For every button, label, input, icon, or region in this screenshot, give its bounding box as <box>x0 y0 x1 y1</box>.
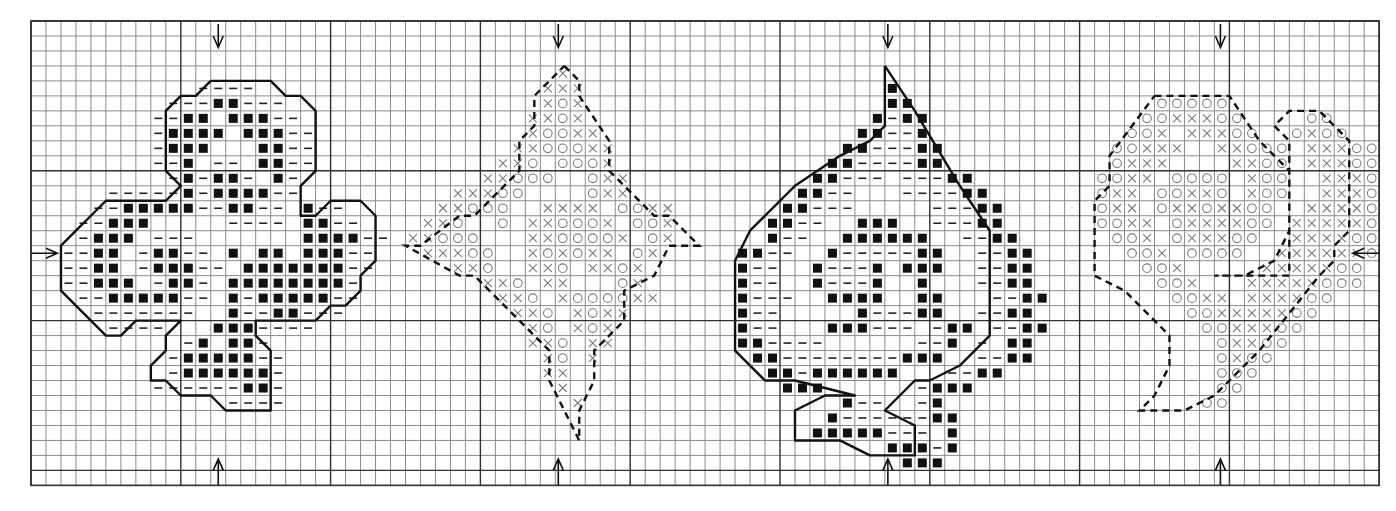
filled-square-stitch-icon <box>978 369 987 378</box>
filled-square-stitch-icon <box>184 264 193 273</box>
circle-stitch-icon <box>1293 309 1302 318</box>
cross-stitch-icon <box>1293 279 1301 287</box>
cross-stitch-icon <box>484 174 492 182</box>
filled-square-stitch-icon <box>1008 279 1017 288</box>
filled-square-stitch-icon <box>169 294 178 303</box>
cross-stitch-icon <box>574 114 582 122</box>
circle-stitch-icon <box>484 264 493 273</box>
filled-square-stitch-icon <box>334 249 343 258</box>
filled-square-stitch-icon <box>843 428 852 437</box>
cross-stitch-icon <box>1323 159 1331 167</box>
filled-square-stitch-icon <box>154 294 163 303</box>
cross-stitch-icon <box>1248 294 1256 302</box>
filled-square-stitch-icon <box>888 234 897 243</box>
cross-stitch-icon <box>1128 159 1136 167</box>
filled-square-stitch-icon <box>918 234 927 243</box>
filled-square-stitch-icon <box>259 249 268 258</box>
filled-square-stitch-icon <box>993 369 1002 378</box>
circle-stitch-icon <box>1173 234 1182 243</box>
cross-stitch-icon <box>514 144 522 152</box>
circle-stitch-icon <box>1173 219 1182 228</box>
filled-square-stitch-icon <box>828 324 837 333</box>
circle-stitch-icon <box>1143 264 1152 273</box>
filled-square-stitch-icon <box>798 204 807 213</box>
filled-square-stitch-icon <box>948 324 957 333</box>
circle-stitch-icon <box>1218 399 1227 408</box>
cross-stitch-icon <box>559 279 567 287</box>
filled-square-stitch-icon <box>753 339 762 348</box>
filled-square-stitch-icon <box>109 264 118 273</box>
filled-square-stitch-icon <box>918 264 927 273</box>
filled-square-stitch-icon <box>873 279 882 288</box>
cross-stitch-icon <box>1188 279 1196 287</box>
circle-stitch-icon <box>529 294 538 303</box>
filled-square-stitch-icon <box>229 99 238 108</box>
cross-stitch-icon <box>1308 159 1316 167</box>
cross-stitch-icon <box>1353 174 1361 182</box>
cross-stitch-icon <box>1278 264 1286 272</box>
filled-square-stitch-icon <box>259 264 268 273</box>
circle-stitch-icon <box>1173 99 1182 108</box>
filled-square-stitch-icon <box>259 189 268 198</box>
cross-stitch-icon <box>1218 234 1226 242</box>
cross-stitch-icon <box>619 189 627 197</box>
cross-stitch-icon <box>1143 144 1151 152</box>
cross-stitch-icon <box>484 279 492 287</box>
circle-stitch-icon <box>1293 324 1302 333</box>
cross-stitch-icon <box>604 249 612 257</box>
circle-stitch-icon <box>1188 309 1197 318</box>
filled-square-stitch-icon <box>843 294 852 303</box>
filled-square-stitch-icon <box>858 219 867 228</box>
cross-stitch-icon <box>574 99 582 107</box>
cross-stitch-icon <box>559 369 567 377</box>
cross-stitch-icon <box>1128 219 1136 227</box>
filled-square-stitch-icon <box>873 219 882 228</box>
cross-stitch-icon <box>544 354 552 362</box>
cross-stitch-icon <box>1203 294 1211 302</box>
circle-stitch-icon <box>588 309 597 318</box>
filled-square-stitch-icon <box>169 264 178 273</box>
filled-square-stitch-icon <box>768 219 777 228</box>
circle-stitch-icon <box>544 249 553 258</box>
cross-stitch-icon <box>514 294 522 302</box>
cross-stitch-icon <box>1323 174 1331 182</box>
filled-square-stitch-icon <box>214 324 223 333</box>
cross-stitch-icon <box>1308 129 1316 137</box>
filled-square-stitch-icon <box>349 234 358 243</box>
filled-square-stitch-icon <box>768 234 777 243</box>
circle-stitch-icon <box>1263 189 1272 198</box>
cross-stitch-icon <box>649 204 657 212</box>
circle-stitch-icon <box>1307 294 1316 303</box>
filled-square-stitch-icon <box>918 294 927 303</box>
filled-square-stitch-icon <box>1023 309 1032 318</box>
circle-stitch-icon <box>469 204 478 213</box>
cross-stitch-icon <box>409 234 417 242</box>
circle-stitch-icon <box>1203 204 1212 213</box>
filled-square-stitch-icon <box>843 234 852 243</box>
circle-stitch-icon <box>544 324 553 333</box>
filled-square-stitch-icon <box>199 354 208 363</box>
filled-square-stitch-icon <box>873 234 882 243</box>
filled-square-stitch-icon <box>813 264 822 273</box>
circle-stitch-icon <box>588 294 597 303</box>
circle-stitch-icon <box>1113 159 1122 168</box>
cross-stitch-icon <box>1338 159 1346 167</box>
filled-square-stitch-icon <box>1008 264 1017 273</box>
cross-stitch-icon <box>514 159 522 167</box>
cross-stitch-icon <box>604 159 612 167</box>
circle-stitch-icon <box>633 204 642 213</box>
cross-stitch-icon <box>1173 204 1181 212</box>
circle-stitch-icon <box>529 174 538 183</box>
cross-stitch-icon <box>544 234 552 242</box>
cross-stitch-icon <box>1338 219 1346 227</box>
filled-square-stitch-icon <box>903 264 912 273</box>
cross-stitch-icon <box>589 339 597 347</box>
filled-square-stitch-icon <box>843 324 852 333</box>
cross-stitch-icon <box>1218 294 1226 302</box>
circle-stitch-icon <box>544 309 553 318</box>
cross-stitch-icon <box>664 234 672 242</box>
filled-square-stitch-icon <box>229 339 238 348</box>
cross-stitch-icon <box>1233 354 1241 362</box>
cross-stitch-icon <box>1338 204 1346 212</box>
filled-square-stitch-icon <box>903 443 912 452</box>
